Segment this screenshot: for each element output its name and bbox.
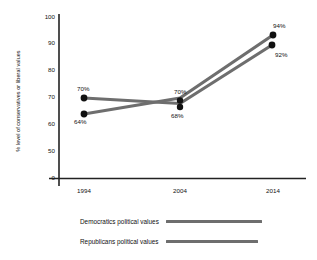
point-label-2014-upper: 94%	[273, 23, 285, 29]
line-chart: % level of conservatives or liberal valu…	[0, 0, 317, 260]
data-point-1994-70	[81, 95, 88, 102]
data-point-2004-68	[177, 104, 183, 110]
legend-item-republicans: Republicans political values	[80, 235, 280, 247]
data-point-2004-70	[177, 97, 183, 103]
x-tick-1994: 1994	[64, 188, 104, 194]
legend-item-democratics: Democratics political values	[80, 215, 280, 227]
point-label-2004-lower: 68%	[171, 113, 183, 119]
legend-swatch-democratics	[166, 220, 262, 223]
data-point-2014-92	[269, 42, 276, 49]
data-point-1994-64	[81, 111, 88, 118]
point-label-1994-upper: 70%	[77, 86, 89, 92]
x-tick-2004: 2004	[160, 188, 200, 194]
x-tick-2014: 2014	[253, 188, 293, 194]
legend-label-republicans: Republicans political values	[80, 238, 159, 245]
data-point-2014-94	[270, 32, 277, 39]
point-label-2014-lower: 92%	[275, 52, 287, 58]
legend-label-democratics: Democratics political values	[80, 218, 159, 225]
legend-swatch-republicans	[166, 240, 258, 243]
point-label-1994-lower: 64%	[74, 119, 86, 125]
point-label-2004-upper: 70%	[174, 89, 186, 95]
